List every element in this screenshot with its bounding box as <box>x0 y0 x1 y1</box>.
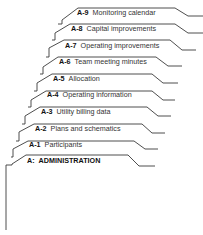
tab-code: A-4 <box>47 90 59 99</box>
tab-title: Utility billing data <box>57 107 111 116</box>
tab-code: A-1 <box>29 140 41 149</box>
tab-title: Participants <box>45 140 83 149</box>
tab-code: A-2 <box>35 124 47 133</box>
tab-code: A-3 <box>41 107 53 116</box>
tab-a4[interactable]: A-4Operating information <box>47 90 132 99</box>
tab-title: Operating information <box>63 90 132 99</box>
tab-title: Plans and schematics <box>51 124 121 133</box>
tab-code: A-9 <box>77 8 89 17</box>
tab-code: A: <box>27 156 35 165</box>
tab-administration[interactable]: A:ADMINISTRATION <box>27 156 100 165</box>
tab-code: A-7 <box>65 41 77 50</box>
tab-a6[interactable]: A-6Team meeting minutes <box>59 57 147 66</box>
tab-a1[interactable]: A-1Participants <box>29 140 82 149</box>
tab-title: ADMINISTRATION <box>39 156 101 165</box>
tab-a7[interactable]: A-7Operating improvements <box>65 41 159 50</box>
tab-title: Operating improvements <box>81 41 160 50</box>
tab-code: A-6 <box>59 57 71 66</box>
tab-outline-a <box>6 155 155 230</box>
file-tabs-drawing <box>0 0 203 235</box>
tab-title: Allocation <box>69 74 100 83</box>
tab-title: Team meeting minutes <box>75 57 147 66</box>
tab-code: A-8 <box>71 24 83 33</box>
tab-title: Monitoring calendar <box>93 8 156 17</box>
tab-a5[interactable]: A-5Allocation <box>53 74 100 83</box>
tab-a2[interactable]: A-2Plans and schematics <box>35 124 121 133</box>
tab-a9[interactable]: A-9Monitoring calendar <box>77 8 156 17</box>
tab-a3[interactable]: A-3Utility billing data <box>41 107 111 116</box>
tab-code: A-5 <box>53 74 65 83</box>
tab-a8[interactable]: A-8Capital improvements <box>71 24 156 33</box>
tab-title: Capital improvements <box>87 24 157 33</box>
